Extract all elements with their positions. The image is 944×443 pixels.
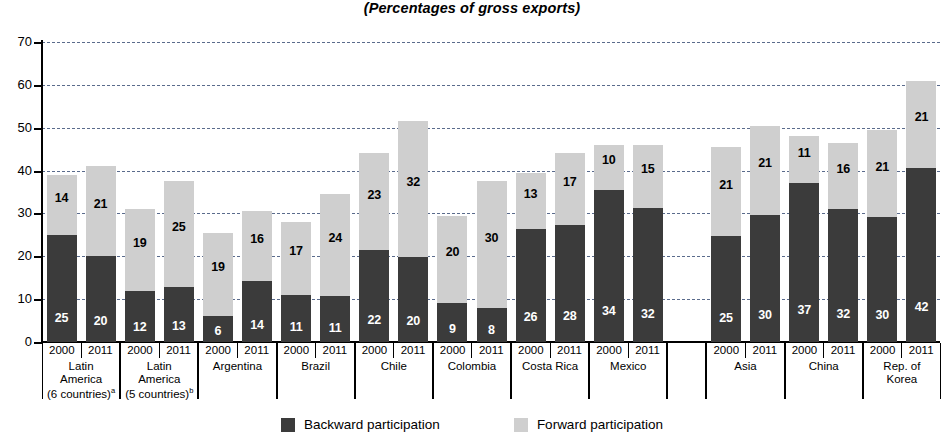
chart-legend: Backward participationForward participat… <box>0 417 944 432</box>
x-group-china: 20002011China <box>785 343 863 399</box>
footnote-marker: b <box>189 386 193 395</box>
legend-item: Forward participation <box>514 417 663 432</box>
stacked-bar: 920 <box>437 216 467 342</box>
bar-segment-backward <box>750 215 780 342</box>
bar-value-forward: 17 <box>555 175 585 189</box>
x-year-label: 2000 <box>278 343 316 358</box>
y-axis-tick-label: 40 <box>0 163 32 178</box>
bar-value-backward: 20 <box>86 314 116 328</box>
bar-segment-backward <box>867 217 897 342</box>
x-year-label: 2000 <box>434 343 472 358</box>
stacked-bar: 3711 <box>789 136 819 342</box>
x-year-label: 2000 <box>707 343 745 358</box>
x-group-spacer <box>667 343 706 399</box>
x-group-costa-rica: 20002011Costa Rica <box>511 343 589 399</box>
y-axis-tick-label: 30 <box>0 205 32 220</box>
bar-segment-forward <box>86 166 116 256</box>
bar-segment-forward <box>281 222 311 295</box>
bar-value-backward: 22 <box>359 313 389 327</box>
bar-value-backward: 9 <box>437 322 467 336</box>
y-axis-tick-label: 70 <box>0 34 32 49</box>
legend-swatch-back <box>281 418 295 432</box>
bar-value-backward: 37 <box>789 303 819 317</box>
bar-segment-backward <box>555 225 585 342</box>
bar-segment-backward <box>359 250 389 342</box>
x-year-label: 2011 <box>550 343 589 358</box>
bar-segment-forward <box>47 175 77 235</box>
bar-value-forward: 32 <box>398 175 428 189</box>
bar-value-backward: 25 <box>47 311 77 325</box>
x-year-label: 2000 <box>590 343 628 358</box>
bar-value-backward: 20 <box>398 314 428 328</box>
bar-segment-forward <box>594 145 624 190</box>
x-group-chile: 20002011Chile <box>355 343 433 399</box>
bar-value-forward: 10 <box>594 153 624 167</box>
x-axis-label-table: 20002011LatinAmerica(6 countries)a200020… <box>42 343 941 399</box>
y-axis-tick-label: 50 <box>0 120 32 135</box>
x-group-label: Asia <box>707 358 783 373</box>
stacked-bar: 1117 <box>281 222 311 342</box>
bar-segment-forward <box>828 143 858 209</box>
y-axis-tick-label: 10 <box>0 291 32 306</box>
legend-label: Backward participation <box>304 417 440 432</box>
bar-segment-backward <box>320 296 350 342</box>
stacked-bar: 3021 <box>867 130 897 342</box>
x-group-mexico: 20002011Mexico <box>589 343 667 399</box>
bar-value-forward: 21 <box>750 156 780 170</box>
bar-value-backward: 11 <box>281 320 311 334</box>
stacked-bar: 2032 <box>398 121 428 342</box>
bar-segment-backward <box>86 256 116 342</box>
chart-root: (Percentages of gross exports) 010203040… <box>0 0 944 443</box>
stacked-bar: 2817 <box>555 153 585 342</box>
bar-value-backward: 28 <box>555 309 585 323</box>
bar-segment-backward <box>281 295 311 342</box>
x-group-label: Brazil <box>278 358 354 373</box>
x-group-brazil: 20002011Brazil <box>277 343 355 399</box>
stacked-bar: 1124 <box>320 194 350 342</box>
bar-value-forward: 21 <box>86 197 116 211</box>
x-group-label: China <box>786 358 862 373</box>
bar-value-forward: 16 <box>242 232 272 246</box>
x-year-label: 2011 <box>745 343 784 358</box>
x-group-colombia: 20002011Colombia <box>433 343 511 399</box>
stacked-bar: 2514 <box>47 175 77 342</box>
bar-value-backward: 32 <box>828 307 858 321</box>
bar-segment-forward <box>633 145 663 208</box>
bar-segment-backward <box>398 257 428 342</box>
x-year-label: 2000 <box>864 343 902 358</box>
chart-subtitle: (Percentages of gross exports) <box>0 0 944 16</box>
x-group-latin-america-(6-countries): 20002011LatinAmerica(6 countries)a <box>42 343 120 399</box>
footnote-marker: a <box>111 386 115 395</box>
x-year-label: 2011 <box>393 343 432 358</box>
x-group-label: Rep. ofKorea <box>864 358 940 385</box>
bar-segment-backward <box>125 291 155 342</box>
x-year-label: 2011 <box>471 343 510 358</box>
bar-value-backward: 13 <box>164 319 194 333</box>
bar-segment-backward <box>906 168 936 342</box>
bars-layer: 2514202112191325619141611171124222320329… <box>42 42 940 342</box>
bar-segment-forward <box>516 173 546 229</box>
bar-segment-forward <box>398 121 428 257</box>
bar-value-forward: 16 <box>828 162 858 176</box>
plot-area: 010203040506070 251420211219132561914161… <box>42 42 940 342</box>
x-year-label: 2000 <box>512 343 550 358</box>
bar-segment-forward <box>750 126 780 215</box>
y-axis-tick-label: 20 <box>0 248 32 263</box>
stacked-bar: 2613 <box>516 173 546 342</box>
stacked-bar: 3215 <box>633 145 663 342</box>
bar-segment-forward <box>125 209 155 290</box>
stacked-bar: 4221 <box>906 81 936 342</box>
stacked-bar: 3021 <box>750 126 780 342</box>
stacked-bar: 1325 <box>164 181 194 342</box>
bar-value-backward: 26 <box>516 310 546 324</box>
bar-value-backward: 30 <box>750 308 780 322</box>
bar-value-forward: 14 <box>47 191 77 205</box>
bar-value-backward: 34 <box>594 304 624 318</box>
x-group-label <box>668 358 705 360</box>
legend-swatch-fwd <box>514 418 528 432</box>
bar-segment-forward <box>437 216 467 303</box>
stacked-bar: 2521 <box>711 147 741 342</box>
bar-segment-backward <box>711 236 741 342</box>
bar-value-backward: 11 <box>320 321 350 335</box>
x-year-label: 2000 <box>121 343 159 358</box>
